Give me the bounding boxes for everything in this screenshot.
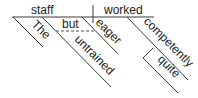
modifier-word-the: The: [29, 17, 54, 42]
conjunction-word: but: [62, 17, 79, 31]
subject-word: staff: [31, 3, 54, 17]
modifier-word-eager: eager: [93, 15, 125, 47]
adverb-branch-connector: [143, 48, 153, 58]
verb-word: worked: [103, 3, 143, 17]
sentence-diagram: staff worked The untrained but eager com…: [0, 0, 198, 98]
